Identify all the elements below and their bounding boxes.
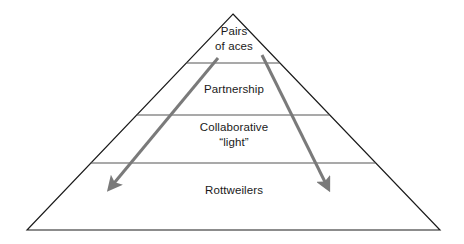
- pyramid-graphic: [0, 0, 464, 244]
- pyramid-diagram: Pairs of aces Partnership Collaborative …: [0, 0, 464, 244]
- pyramid-outline: [27, 14, 440, 230]
